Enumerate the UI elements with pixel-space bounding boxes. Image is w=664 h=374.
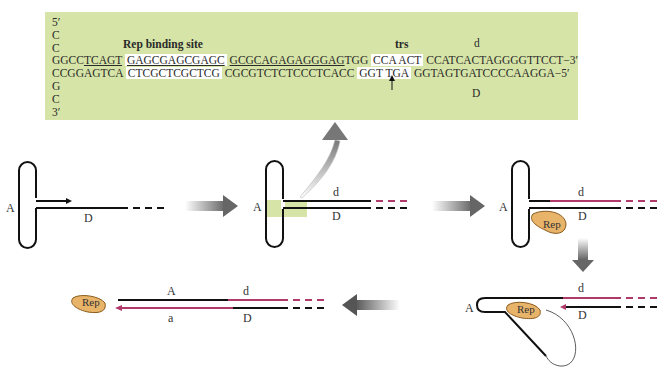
step1-D-label: D (84, 211, 93, 225)
step5-a-label: a (168, 311, 174, 325)
left-arrow-icon (342, 294, 400, 316)
nick-site-arrow-icon (389, 75, 395, 90)
diagram-canvas: A D A d D Rep A d D (0, 0, 664, 374)
curved-up-arrow-icon (300, 122, 348, 198)
step4-A-label: A (465, 301, 474, 315)
step5-D-label: D (243, 311, 252, 325)
right-arrow-icon (185, 195, 238, 217)
step4-hairpin (477, 298, 660, 366)
step3-rep-label: Rep (543, 218, 561, 230)
step3-D-label: D (578, 209, 587, 223)
step3-d-label: d (578, 185, 584, 199)
step1-A-label: A (6, 201, 15, 215)
step5-duplex (115, 300, 324, 311)
step5-d-label: d (243, 284, 249, 298)
step5-A-label: A (167, 284, 176, 298)
down-arrow-icon (572, 238, 594, 272)
step2-D-label: D (332, 209, 341, 223)
right-arrow-icon (432, 195, 485, 217)
step3-A-label: A (499, 200, 508, 214)
step4-D-label: D (578, 308, 587, 322)
step1-hairpin (19, 162, 165, 248)
step4-rep-label: Rep (517, 303, 535, 315)
step2-A-label: A (253, 200, 262, 214)
step4-d-label: d (578, 281, 584, 295)
step3-hairpin (512, 161, 660, 247)
step2-d-label: d (333, 185, 339, 199)
step5-rep-label: Rep (82, 296, 100, 308)
step2-hairpin (266, 161, 412, 247)
